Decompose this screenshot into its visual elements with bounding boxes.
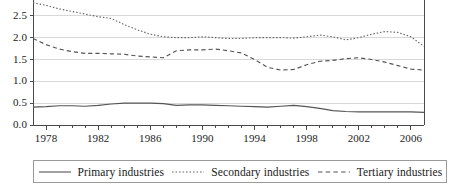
legend-swatch-solid-icon [38,168,72,176]
legend-swatch-dashed-icon [317,168,351,176]
x-tick-label: 1998 [287,133,327,144]
x-tick-label: 1978 [26,133,66,144]
legend-item-primary: Primary industries [38,166,164,178]
x-tick-label: 1994 [235,133,275,144]
chart-legend: Primary industries Secondary industries … [33,160,447,183]
legend-label-tertiary: Tertiary industries [357,166,443,178]
y-tick-label: 2.5 [1,10,27,21]
y-tick-label: 1.5 [1,54,27,65]
plot-area: 0.00.51.01.52.02.53.0 197819821986199019… [0,0,450,150]
x-tick-label: 1990 [182,133,222,144]
series-line-secondary-industries [33,3,424,47]
x-tick-label: 2002 [339,133,379,144]
legend-label-primary: Primary industries [78,166,164,178]
y-tick-label: 1.0 [1,75,27,86]
series-line-tertiary-industries [33,39,424,70]
x-tick-label: 1982 [78,133,118,144]
y-tick-label: 0.0 [1,119,27,130]
y-tick-label: 0.5 [1,97,27,108]
y-tick-label: 2.0 [1,32,27,43]
legend-label-secondary: Secondary industries [211,166,309,178]
legend-item-tertiary: Tertiary industries [317,166,443,178]
x-tick-label: 2006 [391,133,431,144]
legend-item-secondary: Secondary industries [171,166,309,178]
plot-svg [0,0,450,150]
series-line-primary-industries [33,103,424,112]
x-tick-label: 1986 [130,133,170,144]
line-chart: 0.00.51.01.52.02.53.0 197819821986199019… [0,0,450,187]
legend-swatch-dotted-icon [171,168,205,176]
